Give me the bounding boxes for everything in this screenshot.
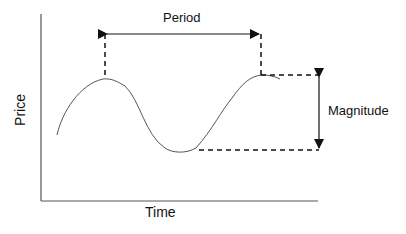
x-axis-label: Time: [145, 204, 176, 220]
price-curve: [57, 75, 280, 152]
magnitude-label: Magnitude: [328, 103, 389, 118]
y-axis-label: Price: [12, 94, 28, 126]
period-label: Period: [163, 10, 201, 25]
